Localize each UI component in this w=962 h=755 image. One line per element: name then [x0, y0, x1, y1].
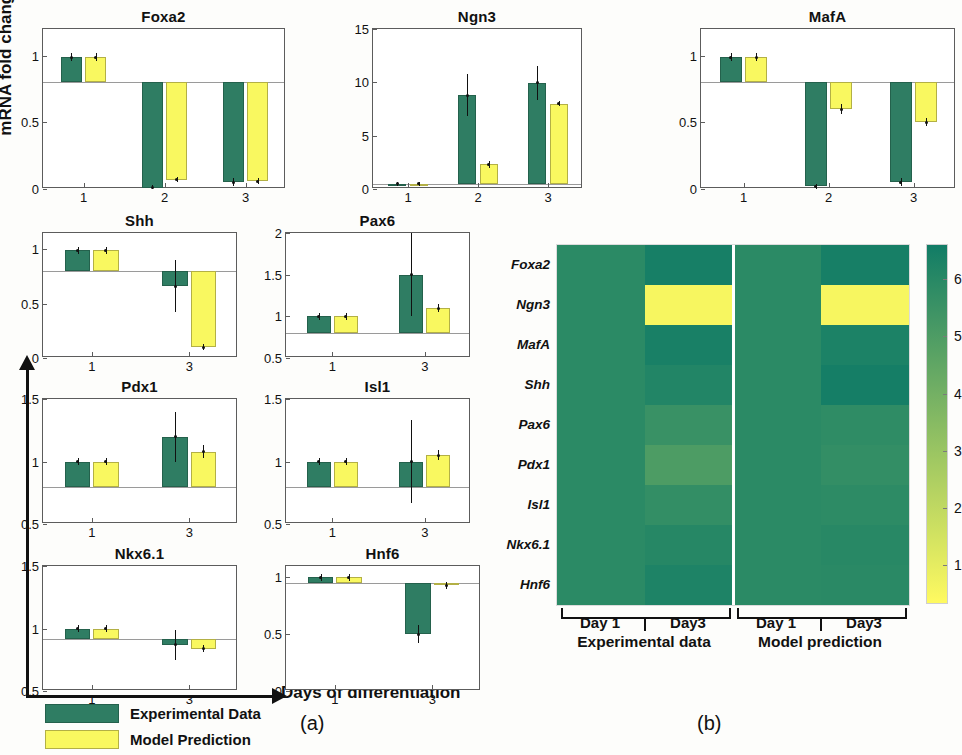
- y-tick-mark: [373, 189, 377, 190]
- heatmap-cell: [557, 285, 645, 325]
- data-point-marker: [410, 460, 413, 463]
- heatmap-cell: [733, 565, 821, 605]
- x-tick-label: 3: [186, 359, 193, 374]
- legend-swatch-model: [45, 730, 119, 749]
- y-tick-mark: [43, 189, 47, 190]
- y-tick-label: 0.5: [21, 684, 39, 699]
- heatmap-cell: [821, 325, 909, 365]
- x-tick-label: 3: [186, 525, 193, 540]
- heatmap-colorbar: 123456: [926, 244, 948, 604]
- y-tick-label: 1: [32, 454, 39, 469]
- baseline: [286, 487, 469, 488]
- x-tick-label: 1: [88, 692, 95, 707]
- heatmap-cell: [733, 405, 821, 445]
- data-point-marker: [256, 180, 259, 183]
- x-tick-label: 3: [421, 525, 428, 540]
- y-tick-mark: [286, 634, 290, 635]
- x-tick-label: 1: [404, 190, 411, 205]
- heatmap-cell: [557, 245, 645, 285]
- x-tick-mark: [829, 183, 830, 187]
- x-tick-label: 1: [329, 359, 336, 374]
- heatmap-group-bracket: [737, 608, 907, 619]
- heatmap-cell: [557, 525, 645, 565]
- data-point-marker: [151, 186, 154, 189]
- bar-panel-hnf6: Hnf600.5113: [285, 545, 480, 710]
- y-tick-label: 1: [275, 570, 282, 585]
- y-tick-mark: [286, 358, 290, 359]
- x-tick-mark: [165, 183, 166, 187]
- x-tick-mark: [189, 352, 190, 356]
- heatmap-row-label: Pax6: [518, 417, 550, 432]
- data-point-marker: [437, 454, 440, 457]
- colorbar-tick-label: 5: [954, 328, 962, 344]
- data-point-marker: [202, 450, 205, 453]
- y-tick-mark: [43, 249, 47, 250]
- heatmap-row-label: Nkx6.1: [506, 537, 550, 552]
- y-tick-label: 0.5: [21, 296, 39, 311]
- y-axis-label: mRNA fold change: [0, 0, 16, 175]
- y-tick-mark: [286, 691, 290, 692]
- y-tick-label: 0: [32, 351, 39, 366]
- caption-b: (b): [697, 712, 721, 735]
- heatmap-cell: [821, 525, 909, 565]
- heatmap-cell: [645, 365, 733, 405]
- plot-area: 00.51123: [700, 28, 955, 188]
- data-point-marker: [755, 56, 758, 59]
- x-tick-mark: [189, 518, 190, 522]
- bar-model: [191, 271, 216, 347]
- x-tick-mark: [189, 685, 190, 689]
- colorbar-tick-label: 1: [954, 557, 962, 573]
- caption-a: (a): [300, 712, 324, 735]
- y-tick-label: 1: [275, 454, 282, 469]
- y-tick-mark: [286, 524, 290, 525]
- x-tick-label: 3: [429, 692, 436, 707]
- plot-area: 0.511.513: [42, 565, 237, 690]
- colorbar-tick-mark: [943, 565, 947, 566]
- heatmap-cell: [645, 485, 733, 525]
- heatmap-cell: [733, 325, 821, 365]
- y-tick-mark: [43, 56, 47, 57]
- y-tick-label: 15: [355, 22, 369, 37]
- y-tick-mark: [43, 122, 47, 123]
- x-tick-label: 1: [88, 525, 95, 540]
- colorbar-tick-mark: [943, 279, 947, 280]
- bar-experimental: [890, 82, 912, 182]
- plot-area: 051015123: [372, 28, 582, 188]
- y-tick-mark: [286, 233, 290, 234]
- y-tick-label: 1: [32, 242, 39, 257]
- y-tick-label: 0: [362, 182, 369, 197]
- y-tick-label: 10: [355, 75, 369, 90]
- heatmap-cell: [821, 445, 909, 485]
- heatmap-cell: [557, 485, 645, 525]
- heatmap-cell: [645, 445, 733, 485]
- x-tick-mark: [548, 183, 549, 187]
- y-tick-label: 1: [32, 621, 39, 636]
- colorbar-tick-mark: [943, 451, 947, 452]
- x-tick-label: 2: [474, 190, 481, 205]
- x-tick-mark: [425, 352, 426, 356]
- y-tick-mark: [701, 56, 705, 57]
- x-tick-mark: [425, 518, 426, 522]
- x-tick-label: 3: [421, 359, 428, 374]
- panel-title: Nkx6.1: [42, 545, 237, 562]
- data-point-marker: [466, 94, 469, 97]
- heatmap-cell: [645, 405, 733, 445]
- bar-experimental: [223, 82, 244, 182]
- bar-experimental: [307, 462, 331, 487]
- panel-title: Shh: [42, 212, 237, 229]
- y-tick-label: 5: [362, 128, 369, 143]
- bar-panel-nkx6-1: Nkx6.10.511.513: [42, 545, 237, 710]
- data-point-marker: [925, 121, 928, 124]
- bar-model: [915, 82, 937, 122]
- x-tick-mark: [92, 518, 93, 522]
- y-tick-label: 1.5: [21, 559, 39, 574]
- heatmap-cell: [645, 525, 733, 565]
- colorbar-tick-mark: [943, 336, 947, 337]
- heatmap-cell: [733, 245, 821, 285]
- plot-area: 00.5113: [42, 232, 237, 357]
- colorbar-tick-mark: [943, 508, 947, 509]
- y-tick-mark: [43, 399, 47, 400]
- data-point-marker: [202, 346, 205, 349]
- y-tick-label: 0.5: [264, 351, 282, 366]
- x-tick-mark: [92, 352, 93, 356]
